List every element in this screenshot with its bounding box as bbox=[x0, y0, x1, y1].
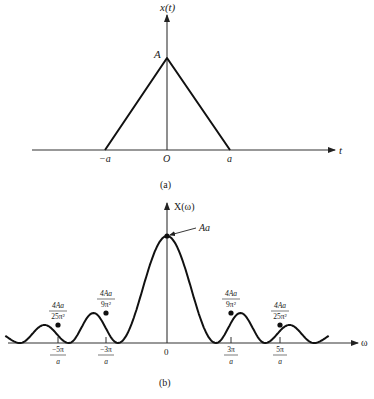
svg-text:a: a bbox=[104, 357, 108, 366]
peak-A-label: A bbox=[153, 48, 161, 60]
peak-Aa-label: Aa bbox=[198, 222, 210, 233]
peak-arrow bbox=[170, 228, 196, 235]
svg-text:−3π: −3π bbox=[100, 345, 112, 354]
lobe-label-pos3: 4Aa 9π² bbox=[222, 289, 240, 309]
X-omega-label: X(ω) bbox=[174, 201, 194, 213]
lobe-label-pos5: 4Aa 25π² bbox=[271, 301, 289, 321]
peak-dot-pos3 bbox=[228, 310, 233, 315]
x-t-label: x(t) bbox=[159, 1, 176, 14]
origin-0-label: 0 bbox=[164, 347, 169, 357]
peak-dot-pos5 bbox=[277, 322, 282, 327]
caption-b: (b) bbox=[159, 377, 171, 389]
peak-dot-neg3 bbox=[103, 310, 108, 315]
svg-text:9π²: 9π² bbox=[101, 300, 112, 309]
figure-b: X(ω) ω Aa 0 −5π a −3π a 3π a 5π a 4Aa bbox=[5, 201, 368, 389]
svg-text:9π²: 9π² bbox=[226, 300, 237, 309]
tick-label-pos5: 5π a bbox=[273, 345, 287, 366]
svg-text:5π: 5π bbox=[276, 345, 284, 354]
peak-dot-main bbox=[164, 233, 169, 238]
svg-text:25π²: 25π² bbox=[273, 312, 287, 321]
lobe-label-neg5: 4Aa 25π² bbox=[49, 301, 67, 321]
peak-dot-neg5 bbox=[55, 322, 60, 327]
svg-text:25π²: 25π² bbox=[51, 312, 65, 321]
svg-text:−5π: −5π bbox=[52, 345, 64, 354]
t-label: t bbox=[339, 144, 343, 156]
tick-label-neg3: −3π a bbox=[98, 345, 114, 366]
caption-a: (a) bbox=[160, 179, 171, 191]
lobe-label-neg3: 4Aa 9π² bbox=[97, 289, 115, 309]
tick-neg-a: −a bbox=[99, 153, 111, 164]
svg-text:3π: 3π bbox=[227, 345, 235, 354]
omega-label: ω bbox=[361, 337, 368, 348]
svg-text:a: a bbox=[56, 357, 60, 366]
svg-text:a: a bbox=[229, 357, 233, 366]
tick-label-neg5: −5π a bbox=[50, 345, 66, 366]
figure-a: x(t) t A −a O a (a) bbox=[32, 1, 343, 191]
svg-text:4Aa: 4Aa bbox=[52, 301, 64, 310]
tick-a: a bbox=[227, 153, 232, 164]
svg-text:4Aa: 4Aa bbox=[274, 301, 286, 310]
svg-text:4Aa: 4Aa bbox=[225, 289, 237, 298]
diagram-canvas: x(t) t A −a O a (a) X(ω) ω Aa 0 −5π a bbox=[0, 0, 374, 399]
tick-origin-O: O bbox=[163, 153, 170, 164]
tick-label-pos3: 3π a bbox=[224, 345, 238, 366]
svg-text:a: a bbox=[278, 357, 282, 366]
svg-text:4Aa: 4Aa bbox=[100, 289, 112, 298]
